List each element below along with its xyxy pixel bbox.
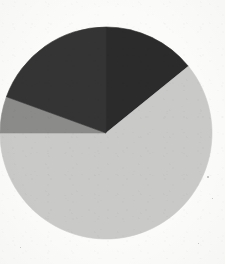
pie-chart <box>0 0 225 264</box>
pie-chart-svg <box>0 0 225 264</box>
screenshot-canvas <box>0 0 225 264</box>
pie-slice-group <box>0 27 212 239</box>
